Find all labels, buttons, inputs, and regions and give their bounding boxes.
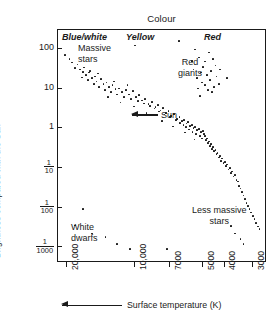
data-point [98, 86, 100, 88]
data-point [81, 77, 83, 79]
data-point [138, 94, 140, 96]
data-point [87, 79, 89, 81]
data-point [179, 122, 181, 124]
data-point [144, 98, 146, 100]
data-point [188, 129, 190, 131]
data-point [212, 58, 214, 60]
data-point [93, 83, 95, 85]
data-point [207, 142, 209, 144]
data-point [191, 124, 193, 126]
data-point [240, 238, 242, 240]
data-point [179, 116, 181, 118]
data-point [211, 91, 213, 93]
data-point [243, 195, 245, 197]
data-point [128, 94, 130, 96]
data-point [218, 157, 220, 159]
data-point [241, 191, 243, 193]
data-point [166, 248, 168, 250]
data-point [187, 121, 189, 123]
data-point [206, 138, 208, 140]
data-point [155, 106, 157, 108]
data-point [219, 69, 221, 71]
data-point [240, 188, 242, 190]
x-tick-mark [252, 262, 253, 267]
data-point [212, 146, 214, 148]
data-point [118, 88, 120, 90]
data-point [108, 86, 110, 88]
data-point [127, 84, 129, 86]
data-point [116, 243, 118, 245]
data-point [228, 169, 230, 171]
data-point [183, 119, 185, 121]
data-point [88, 72, 90, 74]
data-point [137, 100, 139, 102]
data-point [82, 71, 84, 73]
data-point [129, 248, 131, 250]
data-point [94, 76, 96, 78]
data-point [208, 52, 210, 54]
data-point [220, 160, 222, 162]
data-point [252, 215, 254, 217]
data-point [83, 67, 85, 69]
x-tick-mark [169, 262, 170, 267]
data-point [209, 79, 211, 81]
x-axis-title-label: Surface temperature (K) [127, 300, 221, 310]
fraction-denominator: 1000 [36, 247, 54, 255]
data-point [204, 61, 206, 63]
data-point [243, 243, 245, 245]
data-point [89, 70, 91, 72]
data-point [211, 148, 213, 150]
data-point [100, 78, 102, 80]
annotation-sun: Sun [132, 110, 177, 120]
y-axis-title-wrap: Brightness compared with the Sun [2, 48, 18, 258]
data-point [221, 158, 223, 160]
data-point [255, 222, 257, 224]
x-axis-title-wrap: Surface temperature (K) [62, 300, 221, 310]
data-point [121, 91, 123, 93]
y-axis-title-label: Brightness compared with the Sun [0, 124, 2, 258]
data-point [246, 202, 248, 204]
data-point [201, 82, 203, 84]
data-point [195, 133, 197, 135]
data-point [198, 128, 200, 130]
data-point [213, 86, 215, 88]
y-tick-label: 110 [44, 159, 54, 175]
y-tick-label: 11000 [36, 238, 54, 254]
data-point [132, 90, 134, 92]
y-tick-label: 100 [39, 43, 54, 52]
y-tick-label: 1 [49, 122, 54, 131]
fraction: 1100 [40, 199, 54, 215]
data-point [204, 84, 206, 86]
data-point [205, 139, 207, 141]
data-point [192, 131, 194, 133]
data-point [125, 89, 127, 91]
data-point [149, 105, 151, 107]
data-point [210, 70, 212, 72]
data-point [199, 95, 201, 97]
data-point [215, 149, 217, 151]
data-point [202, 130, 204, 132]
x-tick-mark [66, 262, 67, 267]
sun-leader-arrow-icon [132, 114, 158, 115]
data-point [143, 103, 145, 105]
data-point [257, 226, 259, 228]
data-point [209, 145, 211, 147]
data-point [71, 62, 73, 64]
annotation-massive-stars: Massive stars [78, 43, 111, 64]
data-point [104, 89, 106, 91]
x-tick-mark [224, 262, 225, 267]
fraction: 110 [44, 159, 54, 175]
data-point [106, 82, 108, 84]
data-point [250, 212, 252, 214]
data-point [234, 233, 236, 235]
data-point [215, 65, 217, 67]
data-point [249, 208, 251, 210]
data-point [259, 228, 261, 230]
data-point [183, 124, 185, 126]
data-point [105, 236, 107, 238]
data-point [225, 165, 227, 167]
data-point [141, 100, 143, 102]
left-arrow-icon [62, 305, 122, 306]
data-point [178, 40, 180, 42]
data-point [244, 198, 246, 200]
